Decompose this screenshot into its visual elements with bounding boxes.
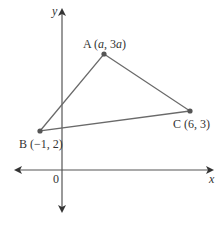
point-b-label: B (−1, 2) bbox=[19, 137, 63, 151]
point-a-label: A (a, 3a) bbox=[83, 37, 126, 51]
origin-label: 0 bbox=[53, 172, 59, 186]
point-a bbox=[101, 51, 106, 56]
x-axis-label: x bbox=[208, 172, 215, 186]
point-c-label: C (6, 3) bbox=[173, 117, 210, 131]
point-c bbox=[187, 108, 192, 113]
y-axis-label: y bbox=[51, 4, 58, 18]
coordinate-diagram: x y 0 A (a, 3a) B (−1, 2) C (6, 3) bbox=[0, 0, 224, 227]
point-b bbox=[37, 128, 42, 133]
